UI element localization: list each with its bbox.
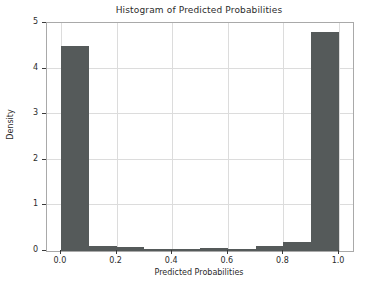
- y-tick-mark: [42, 250, 46, 251]
- plot-area: [46, 22, 354, 252]
- x-tick-mark: [60, 250, 61, 254]
- y-tick-label: 2: [20, 155, 38, 163]
- y-tick-mark: [42, 113, 46, 114]
- histogram-bar: [200, 248, 228, 251]
- page-title: Histogram of Predicted Probabilities: [46, 5, 352, 15]
- y-tick-mark: [42, 22, 46, 23]
- x-tick-mark: [171, 250, 172, 254]
- x-tick-mark: [116, 250, 117, 254]
- y-tick-label: 4: [20, 64, 38, 72]
- y-tick-label: 1: [20, 200, 38, 208]
- y-axis-label: Density: [6, 90, 15, 160]
- x-tick-label: 0.8: [267, 256, 297, 265]
- y-tick-label: 0: [20, 246, 38, 254]
- x-tick-label: 0.2: [101, 256, 131, 265]
- x-tick-label: 0.0: [45, 256, 75, 265]
- histogram-bar: [144, 249, 172, 251]
- x-axis-label: Predicted Probabilities: [46, 268, 352, 277]
- x-tick-mark: [282, 250, 283, 254]
- histogram-bar: [117, 247, 145, 251]
- y-tick-mark: [42, 204, 46, 205]
- y-tick-label: 5: [20, 18, 38, 26]
- histogram-bar: [283, 242, 311, 251]
- histogram-bar: [61, 46, 89, 251]
- x-tick-label: 1.0: [323, 256, 353, 265]
- x-tick-mark: [338, 250, 339, 254]
- x-tick-label: 0.6: [212, 256, 242, 265]
- histogram-bar: [311, 32, 339, 251]
- histogram-bar: [172, 249, 200, 251]
- histogram-bar: [228, 249, 256, 251]
- x-tick-mark: [227, 250, 228, 254]
- x-tick-label: 0.4: [156, 256, 186, 265]
- figure: Histogram of Predicted Probabilities 012…: [0, 0, 377, 285]
- histogram-bar: [89, 246, 117, 251]
- y-tick-mark: [42, 159, 46, 160]
- histogram-bar: [256, 246, 284, 251]
- histogram-bars: [47, 23, 353, 251]
- y-tick-label: 3: [20, 109, 38, 117]
- y-tick-mark: [42, 68, 46, 69]
